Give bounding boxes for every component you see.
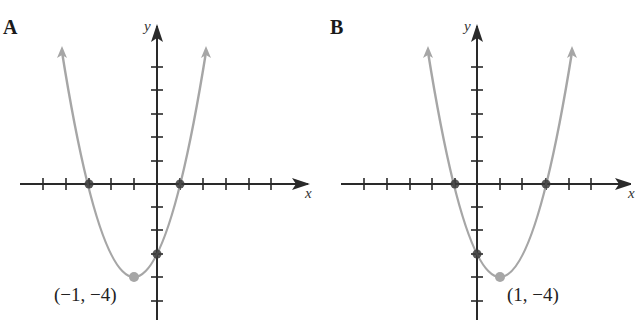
parabola-b bbox=[428, 52, 572, 277]
y-intercept-point bbox=[153, 250, 162, 259]
root-point bbox=[85, 180, 94, 189]
root-point bbox=[542, 180, 551, 189]
panel-label: B bbox=[330, 16, 343, 39]
root-point bbox=[451, 180, 460, 189]
vertex-label: (−1, −4) bbox=[54, 284, 117, 306]
root-point bbox=[176, 180, 185, 189]
y-axis-label: y bbox=[464, 18, 471, 35]
graph-a-plot bbox=[0, 0, 316, 320]
x-axis-label: x bbox=[628, 185, 635, 202]
y-axis-label: y bbox=[144, 18, 151, 35]
parabola-a bbox=[62, 52, 206, 277]
graph-panel-a: A y x (−1, −4) bbox=[0, 0, 316, 320]
vertex-point bbox=[495, 272, 505, 282]
vertex-label: (1, −4) bbox=[507, 284, 559, 306]
x-axis-label: x bbox=[305, 185, 312, 202]
panel-label: A bbox=[3, 16, 17, 39]
graph-panel-b: B y x (1, −4) bbox=[315, 0, 631, 320]
y-intercept-point bbox=[473, 250, 482, 259]
graph-b-plot bbox=[315, 0, 631, 320]
vertex-point bbox=[129, 272, 139, 282]
